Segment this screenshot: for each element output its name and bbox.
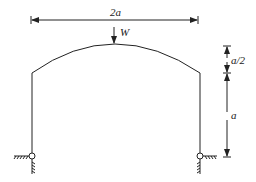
- left-pin-support-icon: [14, 153, 35, 174]
- arch-frame-diagram: 2a W a/2 a: [0, 0, 256, 182]
- frame-members: [32, 44, 200, 153]
- span-dimension: 2a: [31, 6, 198, 24]
- leg-height-dimension: a: [223, 74, 237, 157]
- right-pin-support-icon: [197, 153, 217, 174]
- leg-height-label: a: [231, 109, 237, 121]
- span-label: 2a: [110, 6, 122, 18]
- load-arrow-icon: W: [114, 26, 130, 43]
- rise-dimension: a/2: [223, 46, 246, 73]
- rise-label: a/2: [231, 54, 246, 66]
- arch-crown: [32, 44, 200, 73]
- load-label: W: [120, 26, 130, 38]
